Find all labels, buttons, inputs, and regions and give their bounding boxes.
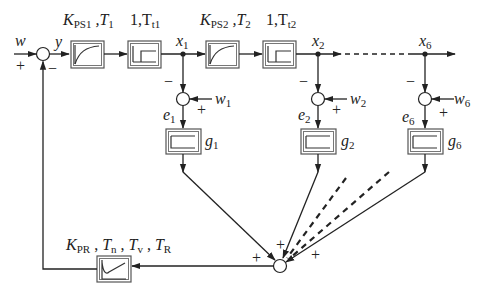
x1-label: x1 <box>175 32 189 51</box>
branch-6-minus: − <box>406 73 415 90</box>
branch-6-plus: + <box>439 104 448 121</box>
branch-1-junction <box>177 93 190 106</box>
input-plus-sign: + <box>16 57 25 74</box>
input-w: w + <box>14 32 36 74</box>
block-tt2 <box>263 41 296 68</box>
block-controller <box>97 256 131 282</box>
bottom-summing-junction <box>274 260 287 273</box>
main-summing-junction <box>37 48 50 61</box>
block-tt1-label: 1,Tt1 <box>130 11 160 30</box>
e2-label: e2 <box>298 106 311 125</box>
branch-2: − w2 + e2 g2 <box>298 54 366 172</box>
g1-label: g1 <box>205 132 219 151</box>
feedback-minus-sign: − <box>48 60 57 77</box>
x6-label: x6 <box>418 32 432 51</box>
branch-2-minus: − <box>299 73 308 90</box>
w1-label: w1 <box>215 90 231 109</box>
w6-label: w6 <box>454 90 471 109</box>
x2-label: x2 <box>311 32 325 51</box>
g6-label: g6 <box>448 132 462 151</box>
branch-2-plus: + <box>332 101 341 118</box>
converging-signals <box>183 172 425 262</box>
branch-1-minus: − <box>164 73 173 90</box>
e6-label: e6 <box>402 108 415 127</box>
branch-2-junction <box>312 93 325 106</box>
bottom-sum-plus-2: + <box>276 236 285 253</box>
block-ps2-label: KPS2 ,T2 <box>199 11 251 30</box>
block-tt1 <box>128 41 161 68</box>
controller-label: KPR , Tn , Tv , TR <box>65 236 172 255</box>
w2-label: w2 <box>350 90 366 109</box>
block-ps2 <box>206 41 239 68</box>
block-ps1 <box>71 41 104 68</box>
block-diagram: w + − y KPS1 ,T1 1,Tt1 x1 KPS2 ,T2 <box>0 0 483 298</box>
e1-label: e1 <box>163 106 176 125</box>
block-ps1-label: KPS1 ,T1 <box>62 11 114 30</box>
block-tt2-label: 1,Tt2 <box>266 11 296 30</box>
branch-1-plus: + <box>197 101 206 118</box>
bottom-sum-plus-1: + <box>252 249 261 266</box>
g2-label: g2 <box>341 132 355 151</box>
y-label: y <box>53 33 63 51</box>
input-w-label: w <box>15 32 26 49</box>
branch-1: − w1 + e1 g1 <box>163 54 231 172</box>
dashed-branch-4 <box>289 172 389 259</box>
bottom-sum-plus-3: + <box>311 246 320 263</box>
branch-6-junction <box>419 93 432 106</box>
branch-6: − w6 + e6 g6 <box>402 54 471 172</box>
